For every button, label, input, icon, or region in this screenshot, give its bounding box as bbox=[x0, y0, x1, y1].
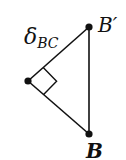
b-point bbox=[85, 130, 92, 137]
right-angle-marker bbox=[43, 68, 56, 95]
segment-vertex-b bbox=[28, 81, 89, 134]
triangle-diagram: δBC B′ B bbox=[0, 0, 126, 160]
b-prime-label: B′ bbox=[97, 13, 118, 37]
b-prime-point bbox=[85, 23, 92, 30]
vertex-point bbox=[24, 77, 31, 84]
b-label: B bbox=[85, 139, 103, 160]
delta-label: δBC bbox=[24, 24, 59, 51]
